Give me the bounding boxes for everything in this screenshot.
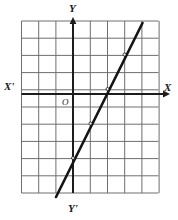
axis-label-y-positive: Y (69, 3, 76, 14)
plotted-point-marker (89, 122, 92, 125)
plotted-line-group (56, 23, 143, 197)
plotted-point-marker (106, 88, 109, 91)
plotted-line (56, 23, 143, 197)
axis-label-x-negative: X' (4, 81, 14, 92)
plotted-point-marker (72, 157, 75, 160)
plotted-point-markers (72, 53, 127, 160)
graph-canvas (0, 0, 178, 220)
coordinate-plane-figure: X' X Y Y' O (0, 0, 178, 220)
axis-label-x-positive: X (164, 82, 171, 93)
plotted-point-marker (123, 53, 126, 56)
axes-group (22, 17, 171, 193)
axis-label-y-negative: Y' (68, 203, 78, 214)
origin-label: O (62, 98, 69, 107)
